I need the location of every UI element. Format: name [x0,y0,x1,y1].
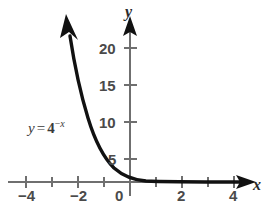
curve-equation-label: y=4−x [28,119,65,136]
x-tick-label--2: −2 [70,188,87,203]
equation-exponent: −x [55,118,65,129]
x-tick-label--4: −4 [18,188,35,203]
exponential-decay-figure: −4 −2 0 2 4 20 15 10 5 x y y=4−x [0,0,271,209]
x-axis-label: x [253,177,261,193]
equation-exponent-variable: x [60,118,64,129]
y-tick-label-20: 20 [99,41,116,56]
plot-canvas [0,0,271,209]
equation-lhs: y [28,120,35,136]
x-tick-label-0: 0 [115,188,123,203]
y-tick-label-15: 15 [99,78,116,93]
x-tick-label-2: 2 [177,188,185,203]
equation-base: 4 [47,120,55,136]
y-tick-label-10: 10 [99,115,116,130]
y-axis-label: y [125,4,132,20]
y-tick-label-5: 5 [108,152,116,167]
equation-operator: = [35,120,47,136]
exponential-curve [70,36,240,182]
x-tick-label-4: 4 [229,188,237,203]
